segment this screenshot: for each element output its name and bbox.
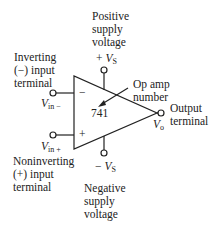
positive-supply-symbol: + VS [96, 52, 117, 68]
vin-minus-label: Vin − [41, 97, 61, 113]
op-amp-number-label: Op amp number [133, 78, 170, 104]
negative-supply-label: Negative supply voltage [84, 182, 126, 221]
negative-supply-symbol: − VS [95, 160, 116, 176]
inverting-input-label: Inverting (−) input terminal [14, 51, 56, 90]
op-amp-number: 741 [91, 107, 108, 120]
arrowhead-icon [98, 100, 106, 107]
vin-plus-label: Vin + [41, 140, 61, 156]
negative-supply-terminal [101, 150, 107, 156]
output-terminal [158, 110, 164, 116]
vo-label: Vo [153, 118, 164, 134]
noninverting-sign: + [79, 128, 86, 141]
noninverting-input-terminal [50, 132, 56, 138]
noninverting-input-label: Noninverting (+) input terminal [13, 155, 74, 194]
inverting-sign: − [79, 86, 86, 99]
positive-supply-label: Positive supply voltage [92, 10, 129, 49]
output-label: Output terminal [170, 102, 208, 128]
inverting-input-terminal [50, 90, 56, 96]
